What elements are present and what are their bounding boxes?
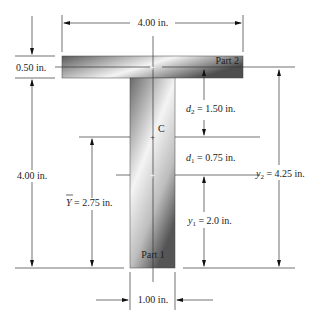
y1-label: y1 = 2.0 in. [187,215,232,228]
t-section-diagram: 4.00 in. 0.50 in. 4.00 in. C + Y = 2.75 … [0,0,319,321]
d1-label: d1 = 0.75 in. [186,152,235,165]
flange-thickness-label: 0.50 in. [16,62,46,73]
d2-label: d2 = 1.50 in. [186,103,235,116]
y-bar-label: Y = 2.75 in. [66,197,112,208]
web-width-label: 1.00 in. [138,294,168,305]
y2-label: y2 = 4.25 in. [255,168,305,181]
part-1-label: Part 1 [141,249,165,260]
part-2-label: Part 2 [215,55,239,66]
centroid-label: C [158,123,165,134]
web-height-label: 4.00 in. [17,170,47,181]
svg-text:+: + [150,132,155,142]
svg-text:+: + [150,62,155,72]
flange-width-label: 4.00 in. [138,17,168,28]
svg-text:+: + [150,170,155,180]
